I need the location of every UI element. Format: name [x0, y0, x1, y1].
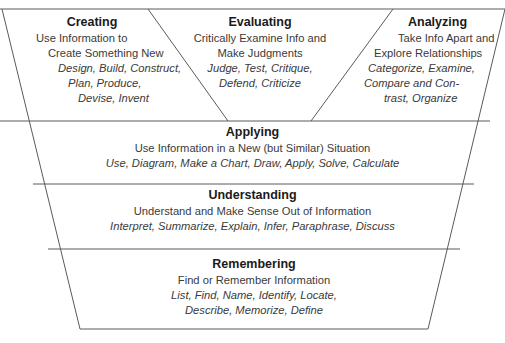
level-verbs: Devise, Invent: [14, 91, 164, 106]
level-verbs: Use, Diagram, Make a Chart, Draw, Apply,…: [40, 156, 465, 171]
level-title: Evaluating: [175, 14, 345, 31]
level-creating: Creating Use Information to Create Somet…: [14, 14, 164, 106]
level-remembering: Remembering Find or Remember Information…: [90, 256, 418, 318]
level-analyzing: Analyzing Take Info Apart and Explore Re…: [362, 14, 502, 106]
level-evaluating: Evaluating Critically Examine Info and M…: [175, 14, 345, 91]
level-title: Creating: [14, 14, 164, 31]
level-understanding: Understanding Understand and Make Sense …: [55, 187, 450, 234]
level-verbs: Categorize, Examine,: [362, 61, 502, 76]
level-verbs: trast, Organize: [362, 91, 502, 106]
level-title: Understanding: [55, 187, 450, 204]
level-title: Remembering: [90, 256, 418, 273]
level-title: Analyzing: [362, 14, 502, 31]
level-desc: Find or Remember Information: [90, 273, 418, 288]
level-desc: Critically Examine Info and: [175, 31, 345, 46]
level-desc: Explore Relationships: [362, 46, 502, 61]
level-verbs: Design, Build, Construct,: [14, 61, 164, 76]
level-title: Applying: [40, 124, 465, 141]
level-desc: Understand and Make Sense Out of Informa…: [55, 204, 450, 219]
level-desc: Make Judgments: [175, 46, 345, 61]
level-verbs: Compare and Con-: [362, 76, 502, 91]
level-desc: Create Something New: [14, 46, 164, 61]
level-verbs: Plan, Produce,: [14, 76, 164, 91]
level-applying: Applying Use Information in a New (but S…: [40, 124, 465, 171]
level-desc: Use Information in a New (but Similar) S…: [40, 141, 465, 156]
level-verbs: Defend, Criticize: [175, 76, 345, 91]
level-verbs: Describe, Memorize, Define: [90, 303, 418, 318]
level-desc: Take Info Apart and: [362, 31, 502, 46]
level-desc: Use Information to: [14, 31, 164, 46]
level-verbs: Interpret, Summarize, Explain, Infer, Pa…: [55, 219, 450, 234]
level-verbs: Judge, Test, Critique,: [175, 61, 345, 76]
level-verbs: List, Find, Name, Identify, Locate,: [90, 288, 418, 303]
